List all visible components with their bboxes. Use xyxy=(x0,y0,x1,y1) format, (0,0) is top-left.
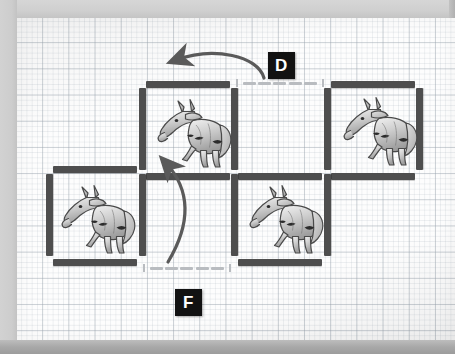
gate-f-dash xyxy=(196,267,209,270)
gate-f-dash xyxy=(150,267,163,270)
gate-d-dash xyxy=(273,82,286,85)
horse-top-middle xyxy=(148,92,238,170)
gate-d[interactable] xyxy=(236,79,324,87)
gate-d-dash xyxy=(304,82,317,85)
gate-f-cap-left xyxy=(143,264,148,272)
label-f: F xyxy=(175,289,202,316)
gate-f-dash xyxy=(211,267,224,270)
gate-d-cap-right xyxy=(319,79,324,87)
gate-f-dash xyxy=(180,267,193,270)
gate-f[interactable] xyxy=(143,264,231,272)
rail-bottom-left-north xyxy=(53,166,137,173)
rail-top-middle-south xyxy=(146,173,230,180)
label-d-text: D xyxy=(275,57,288,74)
diagram-canvas: D F xyxy=(0,0,455,354)
gate-f-cap-right xyxy=(226,264,231,272)
rail-bottom-middle-south xyxy=(238,259,322,266)
rail-top-middle-west xyxy=(139,88,146,170)
gate-d-dash xyxy=(258,82,271,85)
gate-d-dash xyxy=(289,82,302,85)
rail-top-right-north xyxy=(331,81,415,88)
label-f-text: F xyxy=(183,294,194,311)
frame-band-top xyxy=(0,0,455,18)
horse-bottom-left xyxy=(52,178,142,256)
rail-top-right-south xyxy=(331,173,415,180)
horse-top-right xyxy=(334,90,424,168)
frame-band-left xyxy=(0,0,17,354)
rail-bottom-middle-west xyxy=(231,174,238,256)
rail-middle-empty-east xyxy=(324,88,331,170)
horse-bottom-middle xyxy=(240,178,330,256)
rail-bottom-left-south xyxy=(53,259,137,266)
gate-f-dash xyxy=(165,267,178,270)
gate-d-cap-left xyxy=(236,79,241,87)
rail-top-middle-north xyxy=(146,81,230,88)
gate-d-dash xyxy=(243,82,256,85)
frame-band-bottom xyxy=(0,340,455,354)
label-d: D xyxy=(268,52,295,79)
